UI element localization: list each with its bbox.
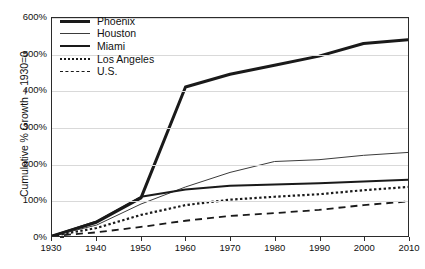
series-line-los-angeles [52, 187, 408, 236]
gridline [52, 201, 408, 202]
legend-label: Phoenix [97, 16, 135, 27]
legend-item-miami: Miami [60, 40, 180, 53]
legend-label: Houston [97, 28, 136, 39]
legend-item-us: U.S. [60, 65, 180, 78]
x-tick-label: 2010 [389, 243, 425, 253]
x-tick-label: 1950 [121, 243, 161, 253]
legend-item-phoenix: Phoenix [60, 15, 180, 28]
x-tick-mark [141, 237, 142, 241]
growth-line-chart: Cumulative % Growth – 1930=0 0%100%200%3… [0, 0, 425, 269]
x-tick-mark [230, 237, 231, 241]
line-swatch-icon [60, 54, 90, 64]
x-tick-mark [275, 237, 276, 241]
x-tick-label: 1930 [31, 243, 71, 253]
legend-item-houston: Houston [60, 28, 180, 41]
line-swatch-icon [60, 41, 90, 51]
legend-label: Miami [97, 41, 125, 52]
legend: Phoenix Houston Miami Los Angeles U.S. [60, 15, 180, 78]
line-swatch-icon [60, 29, 90, 39]
x-tick-label: 2000 [344, 243, 384, 253]
line-swatch-icon [60, 16, 90, 26]
x-tick-label: 1990 [300, 243, 340, 253]
x-tick-label: 1980 [255, 243, 295, 253]
x-tick-mark [364, 237, 365, 241]
x-tick-mark [409, 237, 410, 241]
legend-label: U.S. [97, 66, 117, 77]
gridline [52, 165, 408, 166]
gridline [52, 91, 408, 92]
x-tick-mark [320, 237, 321, 241]
x-tick-label: 1970 [210, 243, 250, 253]
x-tick-mark [96, 237, 97, 241]
x-tick-label: 1940 [76, 243, 116, 253]
series-line-miami [52, 180, 408, 236]
gridline [52, 128, 408, 129]
x-tick-mark [185, 237, 186, 241]
legend-item-los-angeles: Los Angeles [60, 53, 180, 66]
x-tick-mark [51, 237, 52, 241]
legend-label: Los Angeles [97, 54, 154, 65]
line-swatch-icon [60, 67, 90, 77]
x-tick-label: 1960 [165, 243, 205, 253]
